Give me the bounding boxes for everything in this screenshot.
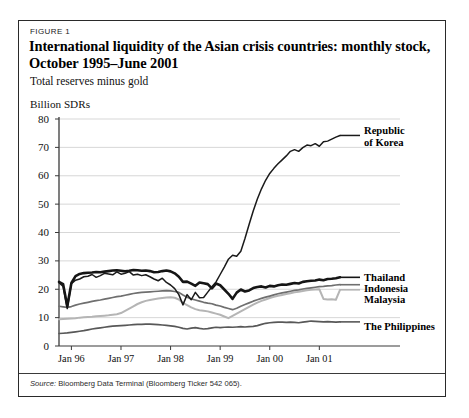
source-text: Bloomberg Data Terminal (Bloomberg Ticke… [56,379,242,388]
series-label-line: Republic [364,125,405,137]
source-divider [19,373,445,374]
series-label-line: Indonesia [364,283,408,295]
series-label-line: Malaysia [364,294,405,306]
series-line-malaysia [59,289,340,319]
gridlines-group [59,119,400,318]
line-chart-svg [19,21,447,398]
series-label-malaysia: Malaysia [364,294,405,306]
x-axis-tick-label: Jan 99 [194,353,246,364]
figure-frame: FIGURE 1 International liquidity of the … [18,20,446,397]
source-note: Source: Bloomberg Data Terminal (Bloombe… [30,379,242,388]
source-prefix: Source: [30,379,56,388]
x-axis-tick-label: Jan 01 [293,353,345,364]
y-axis-tick-label: 50 [25,199,49,210]
x-axis-tick-label: Jan 97 [95,353,147,364]
chart-plot-area: 01020304050607080 Jan 96Jan 97Jan 98Jan … [19,21,447,398]
series-label-indonesia: Indonesia [364,283,408,295]
series-label-thailand: Thailand [364,272,405,284]
series-label-line: Thailand [364,272,405,284]
series-label-line: of Korea [364,137,405,149]
x-axis-tick-label: Jan 98 [145,353,197,364]
y-axis-tick-label: 20 [25,284,49,295]
y-axis-tick-label: 40 [25,227,49,238]
series-label-korea: Republicof Korea [364,125,405,148]
series-label-philippines: The Philippines [364,321,435,333]
series-lines-group [59,135,340,333]
y-axis-tick-label: 80 [25,114,49,125]
series-label-line: The Philippines [364,321,435,333]
series-line-the-philippines [59,321,340,333]
label-leader-lines-group [340,135,360,321]
x-axis-tick-label: Jan 96 [45,353,97,364]
x-axis-tick-label: Jan 00 [244,353,296,364]
y-axis-tick-label: 60 [25,170,49,181]
y-axis-tick-label: 70 [25,142,49,153]
y-axis-tick-label: 30 [25,255,49,266]
y-axis-tick-label: 10 [25,312,49,323]
y-axis-tick-label: 0 [25,341,49,352]
